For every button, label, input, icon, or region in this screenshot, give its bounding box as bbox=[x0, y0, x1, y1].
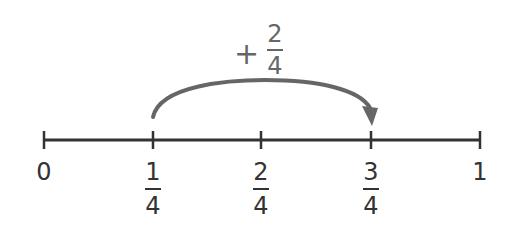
denominator: 4 bbox=[145, 192, 160, 220]
fraction-bar bbox=[267, 49, 283, 51]
jump-arc bbox=[153, 80, 370, 117]
label-1-4: 1 4 bbox=[138, 160, 168, 218]
numerator: 2 bbox=[253, 158, 268, 186]
jump-fraction: 2 4 bbox=[264, 22, 286, 78]
label-2-4: 2 4 bbox=[246, 160, 276, 218]
fraction-bar bbox=[145, 188, 161, 190]
fraction-bar bbox=[253, 188, 269, 190]
arrowhead-icon bbox=[362, 106, 378, 126]
label-1: 1 bbox=[465, 160, 495, 184]
numerator: 1 bbox=[145, 158, 160, 186]
denominator: 4 bbox=[267, 52, 282, 80]
denominator: 4 bbox=[363, 192, 378, 220]
label-3-4: 3 4 bbox=[356, 160, 386, 218]
numerator: 2 bbox=[267, 20, 282, 48]
numerator: 3 bbox=[363, 158, 378, 186]
plus-sign: + bbox=[234, 36, 259, 71]
fraction-bar bbox=[363, 188, 379, 190]
label-0: 0 bbox=[29, 160, 59, 184]
denominator: 4 bbox=[253, 192, 268, 220]
